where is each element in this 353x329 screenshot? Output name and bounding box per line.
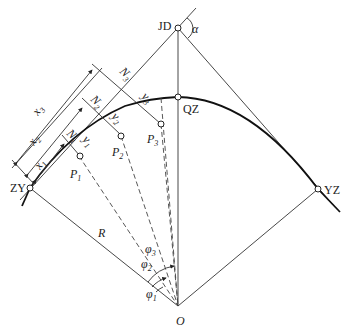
label-p2: P2 [111,145,123,161]
label-x2: x2 [24,132,43,150]
label-phi3: φ3 [145,242,156,258]
point-jd [175,25,181,31]
label-phi2: φ2 [141,257,152,273]
label-phi1: φ1 [146,287,157,303]
label-y3: y3 [137,89,156,108]
label-alpha: α [192,22,199,36]
label-p1: P1 [69,167,81,183]
point-qz [175,94,181,100]
label-o: O [176,314,185,328]
dim-x3 [17,70,92,162]
label-r: R [97,226,106,240]
radius-line-zy [30,188,178,306]
phi2-arc [152,278,166,287]
point-yz [315,186,321,192]
point-p1 [77,153,83,159]
label-x3: x3 [28,102,47,120]
label-n3: N3 [115,64,136,85]
label-jd: JD [158,19,172,33]
label-yz: YZ [324,183,340,197]
point-zy [27,185,33,191]
curve-diagram: JD α QZ ZY YZ O R P1 P2 P3 N1 N2 N3 y1 y… [0,0,353,329]
point-p3 [158,121,164,127]
label-p3: P3 [146,132,158,148]
label-zy: ZY [10,181,26,195]
point-p2 [118,133,124,139]
tangent-line-left [20,8,196,200]
label-qz: QZ [183,102,199,116]
dashed-radius-p3b [161,98,178,306]
dashed-radius-p1 [79,156,178,306]
radius-line-yz [178,189,318,306]
